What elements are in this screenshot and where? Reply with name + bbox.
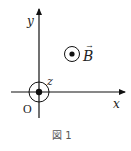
vector-arrow-glyph: → (85, 40, 94, 50)
figure-caption: 図 1 (52, 130, 72, 141)
z-axis-label: z (46, 75, 53, 88)
field-symbol-label: B (82, 48, 93, 64)
magnetic-field-out-of-page-icon (65, 47, 80, 62)
origin-label: O (23, 102, 32, 116)
y-axis-label: y (26, 14, 34, 28)
figure-diagram: y x z O B → 図 1 (0, 0, 131, 151)
x-axis-label: x (113, 97, 120, 111)
